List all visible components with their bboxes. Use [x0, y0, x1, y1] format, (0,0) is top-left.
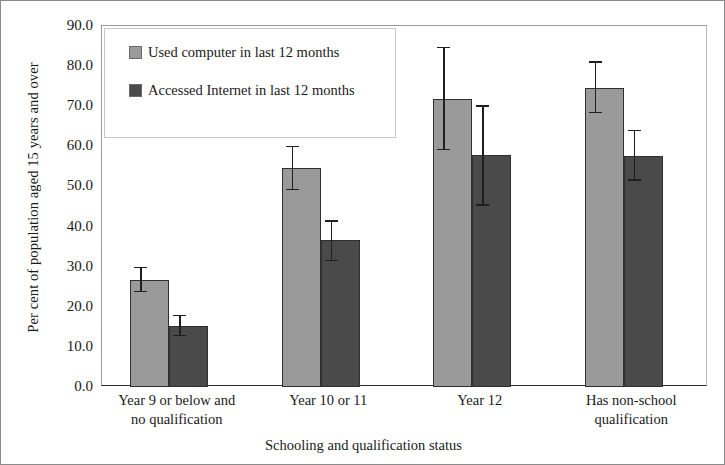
- y-tick-label: 60.0: [67, 137, 93, 154]
- x-tick-label: Year 10 or 11: [253, 391, 405, 410]
- error-bar-cap-top: [437, 47, 450, 49]
- bar-group: [557, 26, 709, 387]
- error-bar-cap-bottom: [325, 260, 338, 262]
- error-bar-cap-top: [173, 315, 186, 317]
- x-tick-label-line: Year 9 or below and: [101, 391, 253, 410]
- error-bar-cap-top: [476, 105, 489, 107]
- y-tick-label: 0.0: [74, 378, 93, 395]
- bar-light: [585, 88, 624, 387]
- error-bar: [331, 220, 349, 261]
- error-bar-cap-top: [628, 130, 641, 132]
- legend-swatch-used-computer: [129, 46, 142, 59]
- error-bar-cap-top: [589, 61, 602, 63]
- bar-light: [130, 280, 169, 387]
- error-bar-cap-bottom: [437, 149, 450, 151]
- x-tick-label: Has non-schoolqualification: [556, 391, 708, 429]
- error-bar: [443, 47, 461, 150]
- bar-dark: [321, 240, 360, 387]
- error-bar: [482, 105, 500, 205]
- error-bar: [292, 146, 310, 191]
- chart-legend: Used computer in last 12 months Accessed…: [104, 28, 396, 138]
- error-bar: [595, 61, 613, 113]
- error-bar-cap-bottom: [173, 335, 186, 337]
- bar-group: [405, 26, 557, 387]
- x-tick-label-line: Year 10 or 11: [253, 391, 405, 410]
- error-bar-stem: [179, 315, 181, 337]
- y-tick-label: 30.0: [67, 257, 93, 274]
- error-bar: [140, 267, 158, 293]
- error-bar-cap-top: [134, 267, 147, 269]
- y-tick-label: 50.0: [67, 177, 93, 194]
- bar-dark: [624, 156, 663, 387]
- x-tick-label-line: Has non-school: [556, 391, 708, 410]
- error-bar-stem: [292, 146, 294, 191]
- error-bar-cap-bottom: [628, 179, 641, 181]
- y-tick-label: 70.0: [67, 97, 93, 114]
- error-bar-cap-top: [286, 146, 299, 148]
- y-tick-label: 90.0: [67, 17, 93, 34]
- chart-figure: Per cent of population aged 15 years and…: [0, 0, 725, 465]
- error-bar-cap-top: [325, 220, 338, 222]
- legend-label-used-computer: Used computer in last 12 months: [148, 43, 339, 62]
- x-axis-title: Schooling and qualification status: [1, 437, 725, 454]
- y-tick-label: 10.0: [67, 337, 93, 354]
- error-bar: [179, 315, 197, 337]
- x-tick-label: Year 9 or below andno qualification: [101, 391, 253, 429]
- error-bar: [634, 130, 652, 181]
- x-tick-label: Year 12: [404, 391, 556, 410]
- x-tick-label-line: Year 12: [404, 391, 556, 410]
- error-bar-stem: [140, 267, 142, 293]
- y-tick-label: 20.0: [67, 297, 93, 314]
- error-bar-cap-bottom: [589, 112, 602, 114]
- error-bar-cap-bottom: [134, 291, 147, 293]
- error-bar-stem: [443, 47, 445, 150]
- legend-swatch-accessed-internet: [129, 84, 142, 97]
- y-tick-label: 80.0: [67, 57, 93, 74]
- error-bar-stem: [482, 105, 484, 205]
- x-tick-label-line: qualification: [556, 410, 708, 429]
- legend-item: Accessed Internet in last 12 months: [129, 81, 395, 100]
- x-tick-label-line: no qualification: [101, 410, 253, 429]
- y-tick-label: 40.0: [67, 217, 93, 234]
- error-bar-stem: [595, 61, 597, 113]
- y-axis-tick-labels: 0.010.020.030.040.050.060.070.080.090.0: [1, 1, 101, 386]
- bar-light: [282, 168, 321, 387]
- legend-label-accessed-internet: Accessed Internet in last 12 months: [148, 81, 355, 100]
- error-bar-stem: [634, 130, 636, 181]
- legend-item: Used computer in last 12 months: [129, 43, 395, 62]
- error-bar-cap-bottom: [286, 189, 299, 191]
- error-bar-stem: [331, 220, 333, 261]
- x-axis-tick-labels: Year 9 or below andno qualificationYear …: [101, 391, 707, 437]
- error-bar-cap-bottom: [476, 204, 489, 206]
